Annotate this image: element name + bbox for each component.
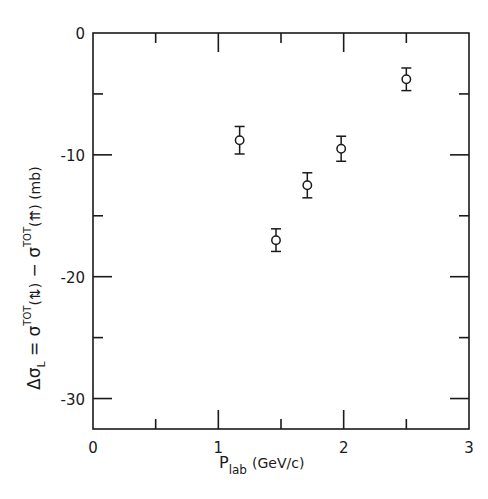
x-axis-label: Plab(GeV/c) — [219, 453, 304, 477]
open-circle-marker — [272, 236, 280, 244]
y-label-delta-sigma: Δσ — [24, 367, 44, 390]
x-axis-label-units: (GeV/c) — [252, 455, 304, 471]
plot-frame — [93, 33, 469, 429]
y-label-sup-tot-1: TOT — [22, 305, 33, 327]
data-point — [271, 229, 281, 252]
data-point — [302, 173, 312, 198]
y-tick-label: -20 — [61, 269, 86, 287]
y-tick-labels: 0-10-20-30 — [61, 25, 86, 409]
open-circle-marker — [235, 136, 243, 144]
y-tick-label: -30 — [61, 391, 86, 409]
y-axis-label: ΔσL = σTOT(⇅) − σTOT(⇈) (mb) — [22, 166, 48, 390]
x-axis-label-sub: lab — [229, 463, 247, 477]
x-tick-label: 2 — [339, 439, 349, 457]
open-circle-marker — [303, 181, 311, 189]
y-label-sup-tot-2: TOT — [22, 226, 33, 248]
y-label-minus-sigma: − σ — [24, 247, 44, 283]
open-circle-marker — [337, 145, 345, 153]
x-axis-label-main: P — [219, 453, 229, 472]
chart: 0123 0-10-20-30 Plab(GeV/c) ΔσL = σTOT(⇅… — [0, 0, 488, 499]
data-point — [401, 68, 411, 91]
y-label-spin-antiparallel: (⇅) — [27, 283, 43, 306]
y-label-spin-parallel: (⇈) — [27, 204, 43, 227]
y-tick-label: 0 — [75, 25, 85, 43]
data-point — [235, 126, 245, 153]
y-label-equals-sigma: = σ — [24, 325, 44, 361]
y-label-units: (mb) — [27, 166, 43, 204]
x-tick-label: 0 — [88, 439, 98, 457]
data-point — [336, 136, 346, 161]
y-tick-label: -10 — [61, 147, 86, 165]
data-points — [235, 68, 412, 251]
plot-border — [93, 33, 469, 429]
axis-ticks — [93, 33, 469, 429]
x-tick-label: 3 — [464, 439, 474, 457]
open-circle-marker — [402, 75, 410, 83]
